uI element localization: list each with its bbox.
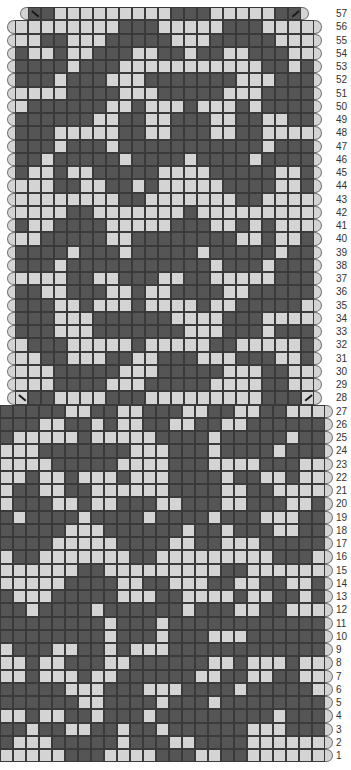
dark-stitch-cell	[197, 140, 210, 153]
light-stitch-cell	[145, 113, 158, 126]
dark-stitch-cell	[312, 418, 325, 431]
light-stitch-cell	[312, 484, 325, 497]
dark-stitch-cell	[132, 113, 145, 126]
dark-stitch-cell	[208, 471, 221, 484]
row-edge-right-icon	[314, 299, 322, 312]
dark-stitch-cell	[260, 683, 273, 696]
light-stitch-cell	[234, 484, 247, 497]
chart-row-39	[15, 246, 314, 259]
dark-stitch-cell	[78, 630, 91, 643]
light-stitch-cell	[54, 285, 67, 298]
light-stitch-cell	[158, 20, 171, 33]
dark-stitch-cell	[301, 259, 314, 272]
dark-stitch-cell	[78, 497, 91, 510]
dark-stitch-cell	[104, 405, 117, 418]
light-stitch-cell	[54, 87, 67, 100]
light-stitch-cell	[15, 87, 28, 100]
light-stitch-cell	[132, 87, 145, 100]
light-stitch-cell	[104, 537, 117, 550]
row-number-label: 39	[336, 246, 351, 259]
dark-stitch-cell	[275, 391, 288, 404]
dark-stitch-cell	[106, 352, 119, 365]
dark-stitch-cell	[156, 603, 169, 616]
dark-stitch-cell	[78, 564, 91, 577]
light-stitch-cell	[210, 20, 223, 33]
dark-stitch-cell	[28, 246, 41, 259]
dark-stitch-cell	[299, 696, 312, 709]
dark-stitch-cell	[15, 126, 28, 139]
row-edge-left-icon	[20, 7, 28, 20]
light-stitch-cell	[93, 352, 106, 365]
light-stitch-cell	[260, 564, 273, 577]
light-stitch-cell	[184, 193, 197, 206]
light-stitch-cell	[210, 259, 223, 272]
light-stitch-cell	[312, 405, 325, 418]
light-stitch-cell	[262, 140, 275, 153]
light-stitch-cell	[93, 391, 106, 404]
light-stitch-cell	[158, 179, 171, 192]
light-stitch-cell	[145, 126, 158, 139]
dark-stitch-cell	[41, 299, 54, 312]
row-edge-right-icon	[314, 126, 322, 139]
light-stitch-cell	[249, 206, 262, 219]
dark-stitch-cell	[130, 511, 143, 524]
row-number-label: 2	[336, 736, 351, 749]
dark-stitch-cell	[91, 630, 104, 643]
light-stitch-cell	[247, 736, 260, 749]
dark-stitch-cell	[54, 166, 67, 179]
light-stitch-cell	[15, 378, 28, 391]
row-number-label: 42	[336, 206, 351, 219]
dark-stitch-cell	[78, 590, 91, 603]
light-stitch-cell	[119, 285, 132, 298]
light-stitch-cell	[65, 643, 78, 656]
light-stitch-cell	[247, 458, 260, 471]
light-stitch-cell	[299, 484, 312, 497]
dark-stitch-cell	[91, 511, 104, 524]
row-edge-left-icon	[7, 47, 15, 60]
row-number-label: 12	[336, 603, 351, 616]
dark-stitch-cell	[312, 696, 325, 709]
light-stitch-cell	[184, 60, 197, 73]
light-stitch-cell	[93, 338, 106, 351]
light-stitch-cell	[117, 458, 130, 471]
light-stitch-cell	[275, 193, 288, 206]
dark-stitch-cell	[130, 683, 143, 696]
dark-stitch-cell	[0, 696, 13, 709]
dark-stitch-cell	[288, 87, 301, 100]
dark-stitch-cell	[80, 60, 93, 73]
light-stitch-cell	[273, 444, 286, 457]
row-edge-left-icon	[7, 365, 15, 378]
dark-stitch-cell	[208, 683, 221, 696]
light-stitch-cell	[143, 484, 156, 497]
light-stitch-cell	[223, 285, 236, 298]
dark-stitch-cell	[223, 166, 236, 179]
light-stitch-cell	[184, 338, 197, 351]
light-stitch-cell	[13, 431, 26, 444]
dark-stitch-cell	[28, 338, 41, 351]
light-stitch-cell	[275, 338, 288, 351]
dark-stitch-cell	[197, 378, 210, 391]
dark-stitch-cell	[288, 299, 301, 312]
dark-stitch-cell	[65, 484, 78, 497]
dark-stitch-cell	[80, 378, 93, 391]
dark-stitch-cell	[119, 391, 132, 404]
dark-stitch-cell	[117, 603, 130, 616]
dark-stitch-cell	[145, 34, 158, 47]
dark-stitch-cell	[156, 736, 169, 749]
row-number-label: 38	[336, 259, 351, 272]
row-edge-right-icon	[325, 511, 333, 524]
light-stitch-cell	[0, 484, 13, 497]
light-stitch-cell	[195, 670, 208, 683]
dark-stitch-cell	[221, 749, 234, 762]
dark-stitch-cell	[301, 338, 314, 351]
dark-stitch-cell	[13, 484, 26, 497]
dark-stitch-cell	[171, 87, 184, 100]
row-edge-right-icon	[314, 219, 322, 232]
dark-stitch-cell	[145, 378, 158, 391]
row-number-label: 29	[336, 378, 351, 391]
light-stitch-cell	[249, 378, 262, 391]
light-stitch-cell	[80, 312, 93, 325]
dark-stitch-cell	[210, 166, 223, 179]
dark-stitch-cell	[249, 113, 262, 126]
light-stitch-cell	[210, 60, 223, 73]
